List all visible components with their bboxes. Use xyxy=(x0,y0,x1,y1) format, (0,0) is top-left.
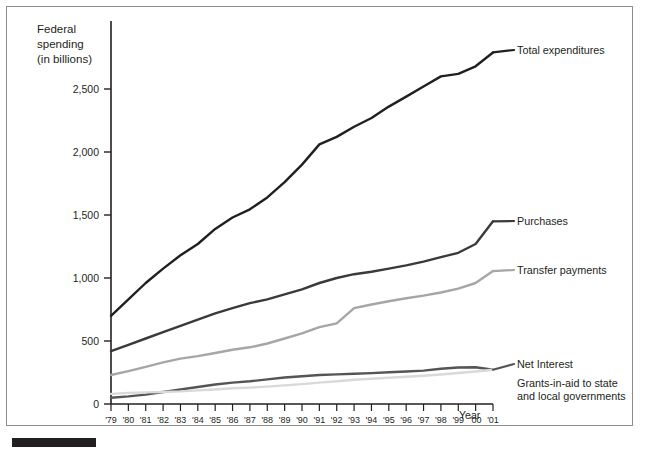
series-label: Net Interest xyxy=(517,358,573,370)
series-label: Total expenditures xyxy=(517,44,605,56)
x-tick-label: '95 xyxy=(383,415,395,425)
x-tick-label: '85 xyxy=(209,415,221,425)
y-tick-label: 1,500 xyxy=(73,209,99,221)
series-leader-lines xyxy=(493,50,514,370)
x-tick-label: '01 xyxy=(487,415,499,425)
series-leader xyxy=(493,50,514,52)
x-tick-label: '83 xyxy=(175,415,187,425)
x-tick-label: '97 xyxy=(418,415,430,425)
x-tick-label: '93 xyxy=(348,415,360,425)
series-leader xyxy=(493,270,514,271)
y-tick-label: 1,000 xyxy=(73,272,99,284)
x-tick-label: '80 xyxy=(122,415,134,425)
x-tick-label: '79 xyxy=(105,415,117,425)
x-tick-label: '86 xyxy=(227,415,239,425)
footer-rule xyxy=(12,438,96,447)
y-axis-title-line3: (in billions) xyxy=(37,53,92,65)
x-tick-label: '94 xyxy=(366,415,378,425)
series-label: Transfer payments xyxy=(517,264,607,276)
y-tick-label: 2,500 xyxy=(73,83,99,95)
series-labels: Total expendituresPurchasesTransfer paym… xyxy=(517,44,626,402)
x-axis-ticks: '79'80'81'82'83'84'85'86'87'88'89'90'91'… xyxy=(105,404,499,425)
federal-spending-line-chart: Federal spending (in billions) 05001,000… xyxy=(7,7,632,425)
y-axis-title-line1: Federal xyxy=(37,23,76,35)
chart-frame: Federal spending (in billions) 05001,000… xyxy=(6,6,633,426)
x-tick-label: '84 xyxy=(192,415,204,425)
y-axis-ticks: 05001,0001,5002,0002,500 xyxy=(73,83,111,410)
x-tick-label: '88 xyxy=(261,415,273,425)
x-tick-label: '96 xyxy=(400,415,412,425)
y-axis-title-line2: spending xyxy=(37,38,84,50)
series-line xyxy=(111,221,493,351)
x-axis-title: Year xyxy=(459,409,481,421)
x-tick-label: '89 xyxy=(279,415,291,425)
series-line xyxy=(111,367,493,398)
series-label: Grants-in-aid to state xyxy=(517,377,618,389)
x-tick-label: '90 xyxy=(296,415,308,425)
series-label: and local governments xyxy=(517,390,626,402)
y-tick-label: 2,000 xyxy=(73,146,99,158)
series-lines xyxy=(111,53,493,398)
x-tick-label: '98 xyxy=(435,415,447,425)
series-leader xyxy=(493,364,514,370)
x-tick-label: '92 xyxy=(331,415,343,425)
x-tick-label: '82 xyxy=(157,415,169,425)
series-line xyxy=(111,271,493,375)
x-tick-label: '91 xyxy=(313,415,325,425)
x-tick-label: '87 xyxy=(244,415,256,425)
series-line xyxy=(111,53,493,316)
y-tick-label: 500 xyxy=(81,335,99,347)
x-tick-label: '81 xyxy=(140,415,152,425)
y-tick-label: 0 xyxy=(93,398,99,410)
series-label: Purchases xyxy=(517,215,569,227)
